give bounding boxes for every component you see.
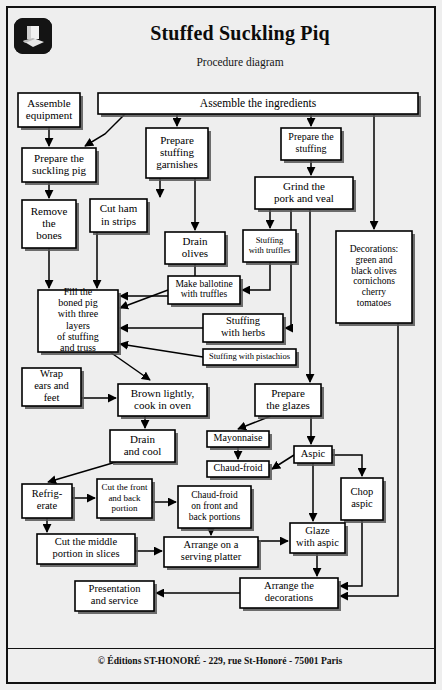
flow-node-drain_olives[interactable]: Drainolives [165,232,228,267]
footer-credit: © Éditions ST-HONORÉ - 229, rue St-Honor… [10,655,430,666]
flow-edge [85,114,125,146]
flow-node-cut_middle[interactable]: Cut the middleportion in slices [37,534,138,567]
node-label: Arrange thedecorations [264,581,314,604]
node-label: Mayonnaise [214,432,263,443]
flow-edge [340,323,398,596]
flow-node-prepare_stuffing[interactable]: Prepare thestuffing [281,128,344,163]
node-label: Cut the middleportion in slices [52,537,119,560]
node-label: Decorations:green andblack olivescornich… [350,245,399,308]
node-label: Chopaspic [351,487,374,510]
flow-node-prepare_pig[interactable]: Prepare thesuckling pig [22,148,99,185]
flow-node-arrange_decorations[interactable]: Arrange thedecorations [240,578,341,611]
flow-node-presentation[interactable]: Presentationand service [75,581,157,614]
flow-node-arrange_platter[interactable]: Arrange on aserving platter [164,537,261,570]
flow-nodes: AssembleequipmentAssemble the ingredient… [18,93,421,614]
flow-node-cut_front_back[interactable]: Cut the frontand backportion [97,479,155,521]
flow-node-glaze_aspic[interactable]: Glazewith aspic [290,523,348,556]
flow-node-wrap_ears[interactable]: Wrapears andfeet [22,368,84,409]
node-label: Assembleequipment [26,96,72,120]
node-label: Preparestuffinggarnishes [156,133,198,170]
flow-node-drain_cool[interactable]: Drainand cool [110,430,178,465]
node-label: Presentationand service [89,584,142,607]
node-label: Assemble the ingredients [200,96,317,109]
flow-node-brown_lightly[interactable]: Brown lightly,cook in oven [118,384,210,419]
procedure-flowchart: AssembleequipmentAssemble the ingredient… [0,0,442,690]
node-label: Chaud-froidon front andback portions [189,491,241,522]
node-label: Cut hamin strips [100,202,138,226]
node-label: Aspic [301,448,326,459]
flow-node-make_ballotine[interactable]: Make ballotinewith truffles [168,276,243,307]
node-label: Prepare thesuckling pig [32,151,87,175]
flow-edge [285,209,291,328]
page-root: Stuffed Suckling Piq Procedure diagram A… [0,0,442,690]
node-label: Stuffing with pistachios [209,351,290,361]
flow-node-stuffing_pistachios[interactable]: Stuffing with pistachios [203,349,299,368]
flow-node-refrigerate[interactable]: Refrig-erate [22,484,75,521]
flow-node-stuffing_herbs[interactable]: Stuffingwith herbs [203,314,286,345]
flow-edge [272,455,294,469]
flow-node-prepare_glazes[interactable]: Preparethe glazes [255,384,324,419]
node-label: Preparethe glazes [266,386,310,410]
flow-edge [242,262,270,290]
flow-node-assemble_ingredients[interactable]: Assemble the ingredients [98,93,421,117]
flow-node-grind_pork[interactable]: Grind thepork and veal [255,177,356,212]
flow-node-chaud_froid[interactable]: Chaud-froid [207,461,272,480]
flow-node-chaud_froid_portions[interactable]: Chaud-froidon front andback portions [178,486,254,531]
node-label: Chaud-froid [214,462,263,473]
flow-node-stuffing_truffles[interactable]: Stuffingwith truffles [243,230,299,265]
node-label: Make ballotinewith truffles [175,279,232,300]
flow-node-decorations[interactable]: Decorations:green andblack olivescornich… [336,231,415,326]
flow-node-remove_bones[interactable]: Removethebones [22,200,79,251]
flow-edge [120,344,203,357]
flow-edge [120,290,168,308]
node-label: Stuffingwith herbs [221,316,265,339]
footer-divider [8,648,434,649]
flow-node-prepare_garnishes[interactable]: Preparestuffinggarnishes [146,128,211,181]
node-label: Brown lightly,cook in oven [131,386,195,410]
flow-node-fill_boned_pig[interactable]: Fill theboned pigwith threelayersof stuf… [38,286,121,355]
flow-node-chop_aspic[interactable]: Chopaspic [341,478,386,523]
flow-node-cut_ham[interactable]: Cut hamin strips [90,199,150,235]
flow-node-mayonnaise[interactable]: Mayonnaise [207,431,272,450]
flow-node-aspic[interactable]: Aspic [294,446,335,466]
node-label: Arrange on aserving platter [181,540,242,563]
node-label: Drainolives [182,234,208,258]
flow-node-assemble_equipment[interactable]: Assembleequipment [18,93,83,130]
flow-edge [332,455,362,476]
flow-edge [110,352,150,380]
